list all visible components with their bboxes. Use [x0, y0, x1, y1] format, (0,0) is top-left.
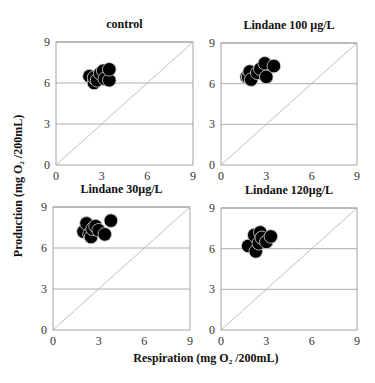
scatter-figure: Production (mg O₂ /200mL) Respiration (m… [0, 0, 375, 383]
x-axis-label: Respiration (mg O₂ /200mL) [133, 351, 278, 365]
panels-group: control03690369Lindane 100 µg/L03690369L… [41, 17, 360, 348]
y-tick-label: 0 [209, 323, 215, 337]
y-tick-label: 6 [41, 241, 47, 255]
y-tick-label: 3 [41, 282, 47, 296]
data-point [104, 214, 118, 228]
x-tick-label: 0 [50, 334, 56, 348]
one-to-one-line [56, 42, 193, 165]
data-point [98, 228, 112, 242]
y-tick-label: 0 [41, 323, 47, 337]
x-tick-label: 0 [53, 169, 59, 183]
y-tick-label: 9 [44, 35, 50, 49]
y-tick-label: 9 [41, 200, 47, 214]
x-tick-label: 9 [187, 334, 193, 348]
one-to-one-line [221, 43, 357, 165]
y-tick-label: 3 [209, 282, 215, 296]
y-tick-label: 9 [209, 201, 215, 215]
y-axis-label: Production (mg O₂ /200mL) [11, 115, 25, 257]
x-tick-label: 3 [96, 334, 102, 348]
panel-title: Lindane 30µg/L [81, 182, 163, 196]
x-tick-label: 0 [218, 169, 224, 183]
x-tick-label: 9 [190, 169, 196, 183]
x-tick-label: 3 [263, 334, 269, 348]
x-tick-label: 3 [263, 169, 269, 183]
panel-lindane-100: Lindane 100 µg/L03690369 [209, 18, 360, 183]
y-tick-label: 3 [209, 117, 215, 131]
panel-title: Lindane 120µg/L [245, 183, 333, 197]
panel-control: control03690369 [44, 17, 196, 183]
x-tick-label: 6 [141, 334, 147, 348]
x-tick-label: 9 [354, 334, 360, 348]
one-to-one-line [53, 207, 190, 330]
x-tick-label: 0 [218, 334, 224, 348]
y-tick-label: 9 [209, 36, 215, 50]
panel-title: Lindane 100 µg/L [244, 18, 335, 32]
y-tick-label: 6 [44, 76, 50, 90]
x-tick-label: 9 [354, 169, 360, 183]
data-point [267, 59, 281, 73]
x-tick-label: 6 [309, 334, 315, 348]
y-tick-label: 6 [209, 242, 215, 256]
panel-lindane-120: Lindane 120µg/L03690369 [209, 183, 360, 348]
x-tick-label: 6 [309, 169, 315, 183]
data-point [102, 63, 116, 77]
panel-lindane-30: Lindane 30µg/L03690369 [41, 182, 193, 348]
y-tick-label: 6 [209, 77, 215, 91]
y-tick-label: 0 [209, 158, 215, 172]
x-tick-label: 6 [144, 169, 150, 183]
data-point [264, 230, 278, 244]
figure-canvas: Production (mg O₂ /200mL) Respiration (m… [0, 0, 375, 383]
panel-title: control [106, 17, 143, 31]
y-tick-label: 3 [44, 117, 50, 131]
y-tick-label: 0 [44, 158, 50, 172]
x-tick-label: 3 [99, 169, 105, 183]
one-to-one-line [221, 208, 357, 330]
